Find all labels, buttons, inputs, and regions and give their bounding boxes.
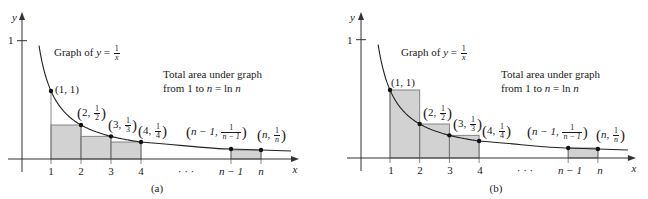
riemann-sum-figure [0, 0, 648, 199]
y-axis-arrow-icon [19, 12, 25, 20]
curve-point [79, 123, 83, 127]
ellipsis: · · · [517, 164, 534, 176]
x-axis-label: x [293, 163, 298, 175]
point-label-2: (2, 12) [423, 105, 452, 122]
x-tick-2: 2 [78, 165, 84, 177]
point-label-n-minus-1: (n − 1, 1n − 1) [186, 124, 247, 141]
curve-point [596, 147, 600, 151]
point-label-1: (1, 1) [391, 77, 415, 88]
point-label-2: (2, 12) [77, 105, 106, 122]
y-tick-1-label: 1 [8, 35, 14, 46]
curve-point [566, 146, 570, 150]
y-tick-1-label: 1 [347, 35, 353, 46]
point-label-3: (3, 13) [108, 117, 137, 134]
total-area-note: Total area under graph from 1 to n = ln … [501, 67, 600, 95]
total-area-note: Total area under graph from 1 to n = ln … [163, 67, 262, 95]
x-axis-arrow-icon [628, 155, 636, 161]
caption-a: (a) [151, 182, 163, 194]
curve-point [447, 133, 451, 137]
y-axis-label: y [350, 12, 355, 23]
x-tick-n: n [258, 165, 264, 177]
point-label-1: (1, 1) [55, 84, 79, 95]
x-tick-1: 1 [48, 165, 54, 177]
point-label-4: (4, 14) [138, 123, 167, 140]
riemann-rectangle [231, 150, 261, 159]
curve-point [109, 134, 113, 138]
riemann-rectangle [568, 148, 598, 158]
riemann-rectangle [81, 136, 111, 159]
curve-point [139, 140, 143, 144]
curve-point [418, 122, 422, 126]
x-tick-2: 2 [417, 164, 423, 176]
x-tick-3: 3 [447, 164, 453, 176]
x-axis-arrow-icon [291, 156, 299, 162]
curve-point [388, 88, 392, 92]
x-tick-n-minus-1: n − 1 [219, 165, 243, 177]
x-tick-3: 3 [108, 165, 114, 177]
riemann-rectangle [420, 124, 450, 158]
curve-point [49, 89, 53, 93]
x-tick-n-minus-1: n − 1 [558, 164, 582, 176]
point-label-n-minus-1: (n − 1, 1n − 1) [527, 124, 588, 141]
riemann-rectangle [111, 142, 141, 159]
x-axis-label: x [632, 162, 637, 174]
point-label-3: (3, 13) [453, 116, 482, 133]
curve-point [229, 147, 233, 151]
point-label-n: (n, 1n) [257, 127, 286, 144]
y-axis-label: y [12, 12, 17, 23]
caption-b: (b) [490, 182, 503, 194]
riemann-rectangle [390, 90, 420, 158]
riemann-rectangle [51, 125, 81, 159]
curve-point [259, 148, 263, 152]
x-tick-n: n [597, 164, 603, 176]
curve-title: Graph of y = 1x [401, 45, 468, 62]
curve-title: Graph of y = 1x [54, 45, 121, 62]
point-label-4: (4, 14) [482, 123, 511, 140]
curve-point [477, 139, 481, 143]
ellipsis: · · · [178, 165, 195, 177]
x-tick-4: 4 [477, 164, 483, 176]
x-tick-1: 1 [388, 164, 394, 176]
point-label-n: (n, 1n) [596, 127, 625, 144]
y-axis-arrow-icon [358, 12, 364, 20]
x-tick-4: 4 [138, 165, 144, 177]
